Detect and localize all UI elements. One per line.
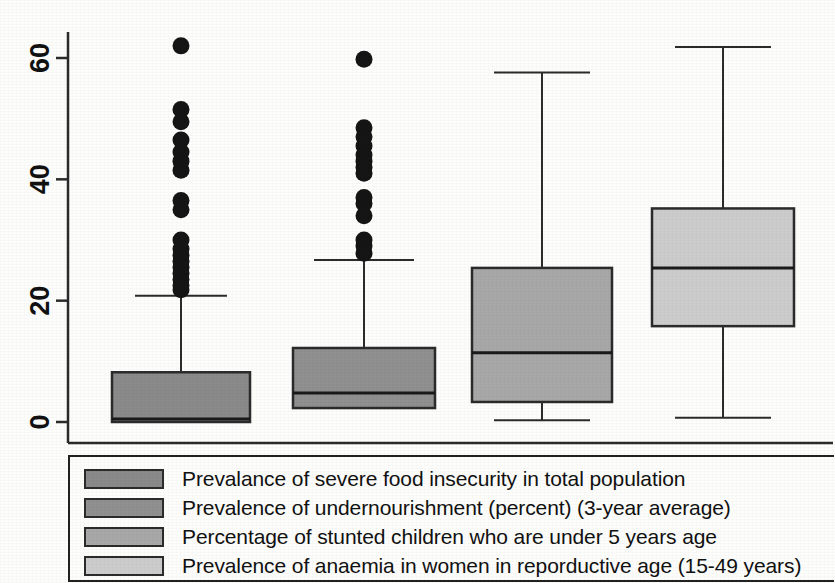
y-axis-tick-labels: 0204060 bbox=[25, 43, 55, 430]
y-tick-label: 20 bbox=[25, 286, 55, 316]
outlier-point bbox=[173, 37, 190, 54]
y-tick-label: 0 bbox=[25, 414, 55, 429]
legend-item: Prevalence of anaemia in women in repord… bbox=[70, 551, 834, 580]
outlier-point bbox=[173, 281, 190, 298]
legend-label-2: Prevalence of undernourishment (percent)… bbox=[182, 496, 731, 520]
outlier-point bbox=[173, 201, 190, 218]
boxplot-4 bbox=[652, 47, 794, 418]
boxplot-svg: 0204060 bbox=[0, 0, 835, 450]
plot-area: 0204060 bbox=[0, 0, 835, 450]
legend-item: Prevalance of severe food insecurity in … bbox=[70, 464, 834, 493]
outlier-point bbox=[356, 165, 373, 182]
legend-swatch-2 bbox=[84, 498, 164, 518]
y-axis-ticks bbox=[56, 58, 68, 422]
box-iqr bbox=[293, 348, 435, 408]
box-series-layer bbox=[112, 37, 794, 422]
outlier-point bbox=[356, 51, 373, 68]
outlier-point bbox=[356, 245, 373, 262]
y-tick-label: 60 bbox=[25, 43, 55, 73]
legend-swatch-3 bbox=[84, 527, 164, 547]
legend-item: Percentage of stunted children who are u… bbox=[70, 522, 834, 551]
legend-swatch-1 bbox=[84, 469, 164, 489]
outlier-point bbox=[173, 162, 190, 179]
legend-label-4: Prevalence of anaemia in women in repord… bbox=[182, 554, 801, 578]
chart-legend: Prevalance of severe food insecurity in … bbox=[68, 455, 834, 582]
y-tick-label: 40 bbox=[25, 164, 55, 194]
legend-swatch-4 bbox=[84, 556, 164, 576]
box-iqr bbox=[112, 372, 250, 422]
legend-label-1: Prevalance of severe food insecurity in … bbox=[182, 467, 685, 491]
boxplot-1 bbox=[112, 37, 250, 422]
legend-item: Prevalence of undernourishment (percent)… bbox=[70, 493, 834, 522]
boxplot-3 bbox=[472, 73, 612, 421]
boxplot-2 bbox=[293, 51, 435, 408]
outlier-point bbox=[173, 113, 190, 130]
outlier-point bbox=[356, 207, 373, 224]
box-iqr bbox=[472, 268, 612, 402]
boxplot-figure: 0204060 Prevalance of severe food insecu… bbox=[0, 0, 835, 583]
legend-label-3: Percentage of stunted children who are u… bbox=[182, 525, 717, 549]
